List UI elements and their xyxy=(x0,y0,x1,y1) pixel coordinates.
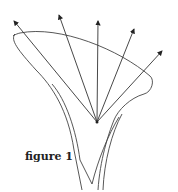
figure-caption: figure 1 xyxy=(25,150,73,163)
focal-point xyxy=(96,121,99,124)
arrow-4 xyxy=(97,29,134,122)
arrow-2 xyxy=(59,15,97,122)
inner-stem-right-2 xyxy=(103,114,122,190)
inner-stem-right xyxy=(92,117,119,184)
arrow-1 xyxy=(14,21,97,122)
funnel-diagram xyxy=(0,0,178,192)
arrow-5 xyxy=(97,51,162,122)
arrow-3 xyxy=(97,21,98,122)
